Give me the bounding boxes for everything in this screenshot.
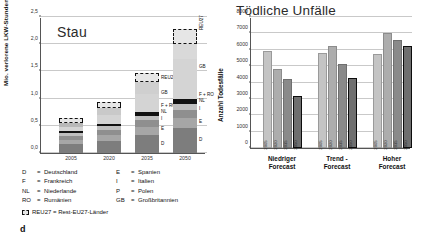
- left-ytick-label-2: 1,0: [31, 90, 38, 96]
- legend-item-P: P = Polen: [116, 187, 178, 196]
- right-y-axis-title: Anzahl Todesfälle: [217, 68, 224, 122]
- bar-year-label: 2005: [318, 140, 323, 149]
- bar-trend-2020: 2020: [328, 46, 337, 148]
- right-ytick-label-8: 8000: [236, 8, 248, 14]
- right-ytick-label-3: 3000: [236, 90, 248, 96]
- reu27-swatch-icon: [22, 210, 29, 215]
- segment-D-2020: [97, 141, 121, 154]
- segment-D-2005: [59, 144, 83, 153]
- right-ytick-label-1: 1000: [236, 123, 248, 129]
- legend-eq-GB: =: [131, 196, 138, 205]
- ytick-mark-2: [39, 97, 41, 98]
- left-xtick-2005: 2005: [65, 155, 77, 161]
- bar-niedriger-2005: 2005: [263, 51, 272, 148]
- bar-year-label: 2050: [403, 140, 408, 149]
- right-ytick-label-0: 0: [245, 139, 248, 145]
- seglabel-2035-D: D: [161, 142, 164, 147]
- r-ytick-mark-2: [249, 114, 251, 115]
- bar-hoher-2035: 2035: [393, 40, 402, 148]
- segment-E-2050: [173, 118, 197, 128]
- legend-eq-D: =: [37, 168, 44, 177]
- legend-eq-E: =: [131, 168, 138, 177]
- seglabel-2035-NL: NL: [161, 110, 167, 115]
- legend-name-reu27: REU27 = Rest-EU27-Länder: [32, 208, 108, 216]
- legend-eq-I: =: [131, 177, 138, 186]
- stacked-bar-2020: [97, 108, 121, 153]
- seglabel-2035-GB: GB: [161, 91, 168, 96]
- left-plot-area: Stau 0,0 0,5 1,0 1,5 2,0 2,5: [40, 18, 205, 154]
- bar-year-label: 2020: [273, 140, 278, 149]
- r-ytick-mark-5: [249, 65, 251, 66]
- left-ytick-label-4: 2,0: [31, 35, 38, 41]
- seglabel-2050-GB: GB: [199, 65, 206, 70]
- seglabel-2050-NL: NL: [199, 99, 205, 104]
- r-ytick-mark-3: [249, 97, 251, 98]
- r-ytick-mark-1: [249, 130, 251, 131]
- legend-item-E: E = Spanien: [116, 168, 178, 177]
- left-chart-panel: Mio. verlorene LKW-Stunden pro Tag Stau …: [0, 0, 214, 244]
- bar-niedriger-2020: 2020: [273, 69, 282, 148]
- seglabel-2050-E: E: [199, 120, 202, 125]
- reu27-box-2005: [59, 118, 83, 122]
- left-ytick-label-1: 0,5: [31, 117, 38, 123]
- reu27-box-2050: [173, 29, 197, 44]
- legend-item-D: D = Deutschland: [22, 168, 116, 177]
- legend-key-F: F: [22, 177, 37, 186]
- legend-key-NL: NL: [22, 187, 37, 196]
- legend-key-P: P: [116, 187, 131, 196]
- group-label-trend: Trend -Forecast: [324, 155, 351, 171]
- left-y-axis-title: Mio. verlorene LKW-Stunden pro Tag: [2, 0, 9, 86]
- bar-year-label: 2050: [348, 140, 353, 149]
- legend-key-I: I: [116, 177, 131, 186]
- segment-filler-2020: [97, 108, 121, 115]
- bar-year-label: 2020: [328, 140, 333, 149]
- segment-I-2050: [173, 110, 197, 118]
- bar-hoher-2020: 2020: [383, 33, 392, 148]
- segment-E-2035: [135, 127, 159, 135]
- right-ytick-label-6: 6000: [236, 41, 248, 47]
- left-xtick-2020: 2020: [103, 155, 115, 161]
- right-ytick-label-4: 4000: [236, 74, 248, 80]
- seglabel-2035-E: E: [161, 127, 164, 132]
- bar-year-label: 2005: [373, 140, 378, 149]
- panel-letter: d: [20, 224, 26, 234]
- ytick-mark-0: [39, 152, 41, 153]
- bar-niedriger-2035: 2035: [283, 79, 292, 148]
- r-ytick-mark-7: [249, 32, 251, 33]
- bar-year-label: 2035: [338, 140, 343, 149]
- legend-item-reu27: REU27 = Rest-EU27-Länder: [22, 208, 212, 216]
- legend-name-D: Deutschland: [44, 168, 77, 177]
- legend-name-RO: Rumänien: [44, 196, 71, 205]
- legend-eq-F: =: [37, 177, 44, 186]
- left-chart-title: Stau: [57, 24, 87, 40]
- right-ytick-label-2: 2000: [236, 106, 248, 112]
- bar-niedriger-2050: 2050: [293, 96, 302, 148]
- legend-item-F: F = Frankreich: [22, 177, 116, 186]
- segment-filler-2035: [135, 82, 159, 94]
- segment-D-2050: [173, 128, 197, 153]
- legend-name-NL: Niederlande: [44, 187, 76, 196]
- legend-key-D: D: [22, 168, 37, 177]
- legend-eq-P: =: [131, 187, 138, 196]
- legend-eq-NL: =: [37, 187, 44, 196]
- seglabel-2050-I: I: [199, 107, 200, 112]
- ytick-mark-3: [39, 70, 41, 71]
- legend-item-I: I = Italien: [116, 177, 178, 186]
- legend-name-GB: Großbritannien: [138, 196, 178, 205]
- left-ytick-label-5: 2,5: [31, 8, 38, 14]
- stacked-bar-2035: [135, 82, 159, 153]
- segment-D-2035: [135, 135, 159, 154]
- seglabel-2035-I: I: [161, 117, 162, 122]
- bar-year-label: 2035: [283, 140, 288, 149]
- bar-trend-2050: 2050: [348, 78, 357, 148]
- left-chart-legend: D = Deutschland F = Frankreich NL = Nied…: [22, 168, 212, 217]
- ytick-mark-4: [39, 43, 41, 44]
- legend-name-I: Italien: [138, 177, 154, 186]
- legend-key-RO: RO: [22, 196, 37, 205]
- gridline-5: [41, 16, 207, 17]
- bar-year-label: 2035: [393, 140, 398, 149]
- r-ytick-mark-4: [249, 81, 251, 82]
- left-ytick-label-3: 1,5: [31, 62, 38, 68]
- group-label-niedriger: NiedrigerForecast: [268, 155, 296, 171]
- stacked-bar-2005: [59, 123, 83, 154]
